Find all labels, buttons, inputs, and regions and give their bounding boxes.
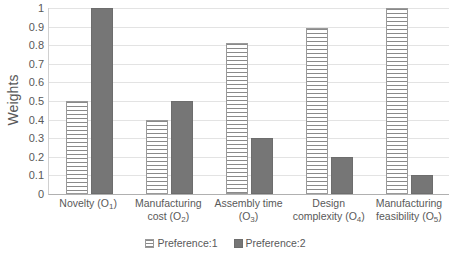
legend-swatch-icon	[145, 239, 154, 248]
y-axis-title: Weights	[2, 0, 24, 200]
bar	[411, 175, 433, 194]
legend-label: Preference:1	[157, 238, 217, 249]
x-axis-category-label: Novelty (O1)	[48, 197, 128, 233]
legend-item[interactable]: Preference:2	[234, 238, 306, 249]
y-axis-tick-label: 0.9	[29, 21, 44, 32]
y-axis-tick-label: 0.3	[29, 133, 44, 144]
y-axis-tick-label: 0.4	[29, 114, 44, 125]
x-axis-category-label: Assembly time(O3)	[208, 197, 288, 233]
plot-area	[48, 8, 449, 195]
bar-group	[289, 8, 369, 194]
x-axis-category-label: Manufacturingcost (O2)	[128, 197, 208, 233]
bar-group	[209, 8, 289, 194]
y-axis-tick-label: 0.1	[29, 170, 44, 181]
bar-groups	[49, 8, 449, 194]
chart-legend: Preference:1Preference:2	[0, 238, 451, 249]
bar	[331, 157, 353, 194]
y-axis-tick-label: 0.2	[29, 151, 44, 162]
legend-swatch-icon	[234, 239, 243, 248]
y-axis-tick-label: 0.8	[29, 40, 44, 51]
y-axis-title-text: Weights	[5, 74, 21, 125]
bar	[66, 101, 88, 194]
x-axis-category-label: Manufacturingfeasibility (O5)	[369, 197, 449, 233]
bar	[226, 43, 248, 194]
bar	[386, 8, 408, 194]
legend-item[interactable]: Preference:1	[145, 238, 217, 249]
bar	[91, 8, 113, 194]
y-axis-tick-label: 1	[38, 3, 44, 14]
bar	[171, 101, 193, 194]
bar	[306, 28, 328, 194]
bar-group	[49, 8, 129, 194]
y-axis-tick-label: 0.5	[29, 96, 44, 107]
bar	[146, 120, 168, 194]
y-axis-tick-label: 0	[38, 189, 44, 200]
bar-group	[369, 8, 449, 194]
y-axis-tick-labels: 10.90.80.70.60.50.40.30.20.10	[22, 8, 46, 194]
legend-label: Preference:2	[246, 238, 306, 249]
x-axis-category-labels: Novelty (O1)Manufacturingcost (O2)Assemb…	[48, 197, 449, 233]
bar-chart: Weights 10.90.80.70.60.50.40.30.20.10 No…	[0, 0, 451, 263]
x-axis-category-label: Designcomplexity (O4)	[289, 197, 369, 233]
y-axis-tick-label: 0.7	[29, 58, 44, 69]
bar	[251, 138, 273, 194]
bar-group	[129, 8, 209, 194]
y-axis-tick-label: 0.6	[29, 77, 44, 88]
